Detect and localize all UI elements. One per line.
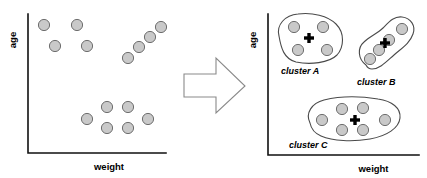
right-panel-y-axis-label: age (247, 32, 258, 48)
data-point (71, 19, 82, 30)
diagram-canvas: age weight age weight cluster Acluster B… (0, 0, 427, 178)
cluster-a: cluster A (278, 13, 342, 76)
cluster-a-data-point (317, 21, 328, 32)
data-point (49, 40, 60, 51)
data-point (142, 113, 153, 124)
clustering-diagram: age weight age weight cluster Acluster B… (0, 0, 427, 178)
left-panel-y-axis-label: age (7, 32, 18, 48)
cluster-b-data-point (396, 23, 407, 34)
data-point (133, 41, 144, 52)
data-point (101, 101, 112, 112)
cluster-b-data-point (373, 44, 384, 55)
left-panel: age weight (7, 14, 167, 172)
right-panel: age weight cluster Acluster Bcluster C (247, 13, 419, 174)
cluster-centroid-marker (350, 115, 360, 125)
data-point (81, 40, 92, 51)
data-point (155, 21, 166, 32)
cluster-c-data-point (336, 103, 347, 114)
data-point (144, 31, 155, 42)
cluster-b-label: cluster B (357, 77, 396, 87)
data-point (101, 122, 112, 133)
cluster-b-data-point (364, 53, 375, 64)
left-panel-data-points (38, 19, 166, 133)
cluster-a-data-point (321, 44, 332, 55)
cluster-a-label: cluster A (281, 66, 319, 76)
cluster-b: cluster B (357, 17, 414, 87)
upper-left-group (38, 19, 92, 51)
right-panel-x-axis-label: weight (357, 163, 389, 174)
cluster-c-data-point (379, 114, 390, 125)
left-panel-x-axis-label: weight (93, 161, 125, 172)
cluster-centroid-marker (304, 33, 314, 43)
data-point (122, 101, 133, 112)
data-point (81, 113, 92, 124)
transformation-arrow-icon (184, 58, 245, 113)
data-point (38, 19, 49, 30)
cluster-c-data-point (357, 124, 368, 135)
cluster-c-data-point (316, 114, 327, 125)
cluster-c-label: cluster C (289, 140, 328, 150)
cluster-c-data-point (336, 124, 347, 135)
cluster-c-data-point (357, 102, 368, 113)
data-point (122, 52, 133, 63)
cluster-a-data-point (292, 44, 303, 55)
cluster-c: cluster C (289, 97, 400, 150)
cluster-a-data-point (288, 21, 299, 32)
diagonal-group (122, 21, 166, 63)
data-point (122, 122, 133, 133)
right-panel-clusters: cluster Acluster Bcluster C (278, 13, 413, 150)
lower-middle-group (81, 101, 153, 133)
